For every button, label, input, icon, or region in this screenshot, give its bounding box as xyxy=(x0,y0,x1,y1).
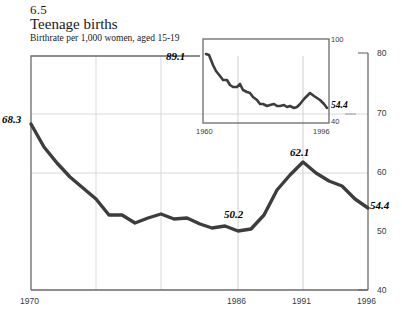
value-label-start: 68.3 xyxy=(2,113,21,125)
inset-y-top-label: 100 xyxy=(331,35,344,44)
inset-x-tick-1996: 1996 xyxy=(313,127,330,136)
y-tick-80: 80 xyxy=(377,48,386,58)
value-label-end: 54.4 xyxy=(370,199,389,211)
y-tick-50: 50 xyxy=(377,226,386,236)
figure-panel: 6.5 Teenage births Birthrate per 1,000 w… xyxy=(0,0,402,314)
inset-value-label-end: 54.4 xyxy=(331,100,348,110)
inset-series-line xyxy=(206,54,327,108)
inset-frame xyxy=(203,39,329,123)
x-tick-1991: 1991 xyxy=(292,296,311,306)
y-tick-70: 70 xyxy=(377,108,386,118)
x-tick-1970: 1970 xyxy=(20,296,39,306)
x-tick-1986: 1986 xyxy=(227,296,246,306)
main-series-line xyxy=(31,124,368,231)
chart-canvas xyxy=(0,0,402,314)
value-label-peak: 62.1 xyxy=(290,146,309,158)
value-label-top-bracket: 89.1 xyxy=(166,50,185,62)
value-label-minimum: 50.2 xyxy=(224,208,243,220)
main-right-axis xyxy=(358,53,368,290)
inset-x-tick-1960: 1960 xyxy=(196,127,213,136)
inset-y-bottom-label: 40 xyxy=(331,117,339,126)
y-tick-60: 60 xyxy=(377,167,386,177)
y-tick-40: 40 xyxy=(377,285,386,295)
x-tick-1996: 1996 xyxy=(357,296,376,306)
